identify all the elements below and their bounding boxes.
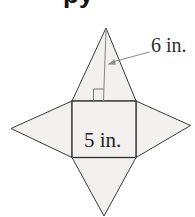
- pyramid-net-figure: [0, 0, 195, 217]
- worksheet-figure-area: py 6 in. 5 in.: [0, 0, 195, 217]
- label-leader-line: [114, 52, 150, 62]
- bottom-triangle-face: [72, 158, 136, 217]
- right-triangle-face: [136, 101, 191, 158]
- base-side-label: 5 in.: [84, 130, 121, 151]
- slant-height-label: 6 in.: [151, 35, 187, 55]
- left-triangle-face: [11, 101, 72, 158]
